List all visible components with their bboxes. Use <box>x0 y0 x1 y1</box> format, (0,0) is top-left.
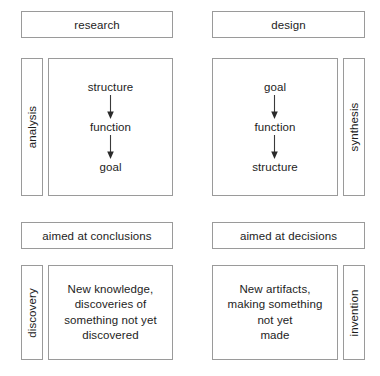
flow-node-design-2: function <box>254 120 295 134</box>
arrow-down-icon <box>269 134 280 160</box>
side-label-box-discovery: discovery <box>21 265 43 360</box>
outcome-line: New knowledge, <box>64 282 156 298</box>
arrow-down-icon <box>269 94 280 120</box>
outcome-text-design: New artifacts, making something not yet … <box>222 282 329 344</box>
side-label-box-invention: invention <box>343 265 365 360</box>
outcome-line: discoveries of <box>64 297 156 313</box>
outcome-panel-design: New artifacts, making something not yet … <box>212 265 338 360</box>
aim-header-box-decisions: aimed at decisions <box>212 222 365 249</box>
header-box-research: research <box>21 11 173 38</box>
header-label-design: design <box>271 19 306 31</box>
side-label-synthesis: synthesis <box>348 103 360 152</box>
aim-header-box-conclusions: aimed at conclusions <box>21 222 173 249</box>
arrow-down-icon <box>105 134 116 160</box>
aim-header-label-conclusions: aimed at conclusions <box>42 230 151 242</box>
outcome-text-research: New knowledge, discoveries of something … <box>58 282 162 344</box>
aim-header-label-decisions: aimed at decisions <box>240 230 337 242</box>
outcome-line: not yet <box>228 313 323 329</box>
diagram-canvas: research design analysis structure funct… <box>0 0 380 376</box>
flow-chain-design: goal function structure <box>252 80 298 174</box>
flow-panel-research: structure function goal <box>48 58 173 196</box>
outcome-line: something not yet <box>64 313 156 329</box>
outcome-line: making something <box>228 297 323 313</box>
outcome-line: made <box>228 328 323 344</box>
flow-node-research-2: function <box>90 120 131 134</box>
outcome-line: New artifacts, <box>228 282 323 298</box>
flow-node-research-1: structure <box>88 80 134 94</box>
outcome-line: discovered <box>64 328 156 344</box>
header-label-research: research <box>74 19 120 31</box>
flow-node-research-3: goal <box>99 160 121 174</box>
header-box-design: design <box>212 11 365 38</box>
side-label-discovery: discovery <box>26 288 38 337</box>
outcome-panel-research: New knowledge, discoveries of something … <box>48 265 173 360</box>
arrow-down-icon <box>105 94 116 120</box>
side-label-box-analysis: analysis <box>21 58 43 196</box>
side-label-invention: invention <box>348 289 360 336</box>
side-label-analysis: analysis <box>26 106 38 148</box>
flow-chain-research: structure function goal <box>88 80 134 174</box>
flow-node-design-3: structure <box>252 160 298 174</box>
side-label-box-synthesis: synthesis <box>343 58 365 196</box>
flow-panel-design: goal function structure <box>212 58 338 196</box>
flow-node-design-1: goal <box>264 80 286 94</box>
